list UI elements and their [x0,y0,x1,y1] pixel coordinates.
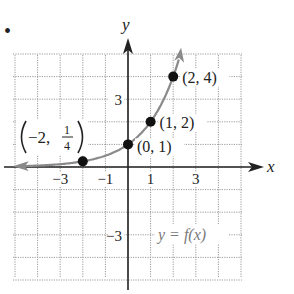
svg-text:(2, 4): (2, 4) [182,69,217,87]
y-axis-label: y [120,15,130,34]
svg-text:−1: −1 [97,171,113,187]
exponential-graph: • −3−1133−3 (2, 4)(1, 2)(0, 1)−2, 14 x y… [0,0,294,294]
svg-text:4: 4 [64,139,70,153]
svg-text:−3: −3 [52,171,68,187]
svg-text:1: 1 [64,123,70,137]
svg-text:1: 1 [147,171,155,187]
svg-text:3: 3 [115,92,123,108]
svg-text:(0, 1): (0, 1) [137,138,172,156]
function-label: y = f(x) [155,224,229,244]
svg-text:−2,: −2, [28,128,50,147]
x-axis-label: x [266,157,275,176]
point-labels: (2, 4)(1, 2)(0, 1)−2, 14 [16,69,229,157]
svg-text:(1, 2): (1, 2) [160,114,195,132]
svg-text:3: 3 [192,171,200,187]
bullet-marker: • [4,20,11,42]
svg-text:−3: −3 [106,228,122,244]
svg-text:y = f(x): y = f(x) [156,226,206,244]
